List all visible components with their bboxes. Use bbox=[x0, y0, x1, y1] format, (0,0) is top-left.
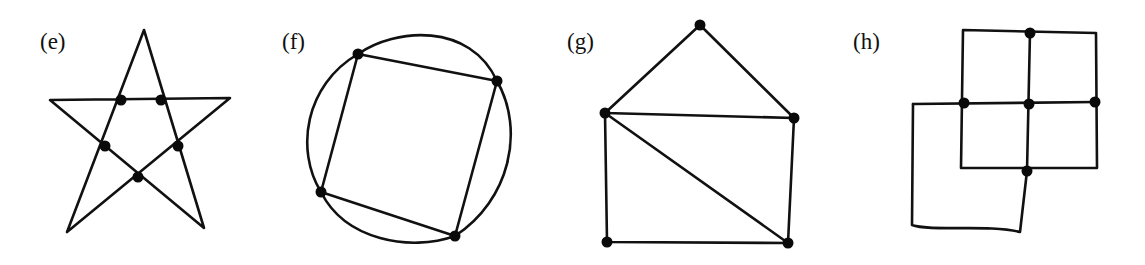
vertex-dot bbox=[695, 20, 706, 31]
edge bbox=[50, 30, 230, 232]
figure-label-e: (e) bbox=[40, 30, 66, 53]
vertex-dot bbox=[1025, 28, 1036, 39]
vertex-dot bbox=[1090, 97, 1101, 108]
vertex-dot bbox=[600, 108, 611, 119]
figure-label-g: (g) bbox=[567, 30, 594, 53]
edge bbox=[605, 113, 788, 243]
figure-h bbox=[912, 28, 1101, 233]
vertex-dot bbox=[959, 98, 970, 109]
vertex-dot bbox=[100, 141, 111, 152]
vertex-dot bbox=[450, 231, 461, 242]
vertex-dot bbox=[353, 49, 364, 60]
vertex-dot bbox=[783, 238, 794, 249]
vertex-dot bbox=[789, 113, 800, 124]
figure-g bbox=[600, 20, 800, 249]
vertex-dot bbox=[492, 76, 503, 87]
edge bbox=[321, 54, 497, 236]
vertex-dot bbox=[156, 95, 167, 106]
figure-label-f: (f) bbox=[282, 30, 305, 53]
vertex-dot bbox=[133, 172, 144, 183]
vertex-dot bbox=[1022, 166, 1033, 177]
vertex-dot bbox=[173, 141, 184, 152]
edge bbox=[913, 102, 1095, 104]
figure-label-h: (h) bbox=[853, 30, 880, 53]
figure-e bbox=[50, 30, 230, 232]
edge bbox=[605, 25, 794, 118]
vertex-dot bbox=[602, 237, 613, 248]
vertex-dot bbox=[1024, 99, 1035, 110]
vertex-dot bbox=[316, 187, 327, 198]
figure-f bbox=[307, 35, 511, 243]
vertex-dot bbox=[116, 95, 127, 106]
